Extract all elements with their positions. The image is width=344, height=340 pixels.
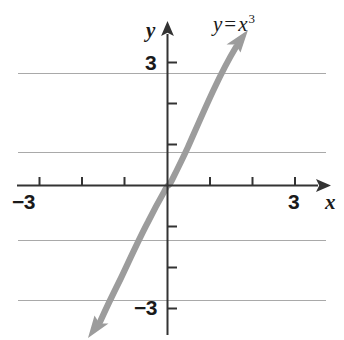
x-axis-label: x [325,192,336,213]
cubing-function-figure: y x 3 −3 −3 3 y=x3 [0,0,344,340]
graph-canvas [0,0,344,340]
page-rule-lines [18,74,326,301]
curve-equation-label: y=x3 [213,14,255,35]
equation-base: x [238,12,247,36]
x-tick-label-3: 3 [288,191,299,212]
equation-exponent: 3 [248,11,256,26]
y-tick-label-neg3: −3 [134,297,157,318]
equation-operator: = [222,12,238,36]
y-tick-label-3: 3 [145,52,156,73]
x-tick-label-neg3: −3 [12,191,35,212]
equation-lhs: y [213,12,222,36]
y-axis-label: y [146,20,155,41]
